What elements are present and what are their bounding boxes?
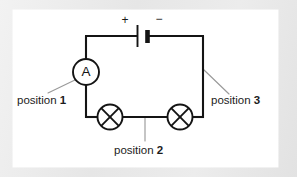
label-position-1-text: position	[17, 94, 60, 106]
label-position-3-text: position	[211, 94, 254, 106]
lamp-right-symbol	[168, 105, 193, 130]
ammeter-symbol: A	[73, 59, 99, 85]
label-position-3: position 3	[211, 95, 260, 107]
battery-minus-sign: −	[155, 12, 162, 26]
label-position-2-number: 2	[157, 144, 163, 156]
leader-line-position-1	[48, 79, 77, 93]
leader-line-position-3	[203, 69, 229, 94]
label-position-1-number: 1	[60, 94, 66, 106]
circuit-diagram-screenshot: + − A position 1 position 2 position 3	[0, 0, 297, 177]
label-position-2-text: position	[114, 144, 157, 156]
label-position-3-number: 3	[254, 94, 260, 106]
lamp-left-symbol	[98, 105, 123, 130]
label-position-1: position 1	[17, 95, 66, 107]
battery-symbol	[138, 25, 148, 47]
label-position-2: position 2	[114, 145, 163, 157]
ammeter-letter: A	[81, 64, 90, 79]
battery-plus-sign: +	[121, 13, 128, 27]
